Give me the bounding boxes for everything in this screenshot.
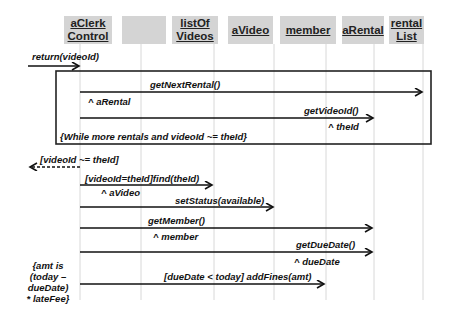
participant-arental: aRental	[342, 16, 384, 44]
label-set-status: setStatus(available)	[175, 195, 264, 206]
label-get-due-date: getDueDate()	[296, 239, 355, 250]
label-arental-return: ^ aRental	[88, 96, 131, 107]
label-avideo-return: ^ aVideo	[101, 187, 140, 198]
participant-rental-list: rental List	[389, 16, 424, 44]
label-get-member: getMember()	[148, 215, 205, 226]
participant-label: rental List	[391, 17, 422, 43]
label-due-date-return: ^ dueDate	[294, 256, 340, 267]
participant-label: listOf Videos	[176, 17, 214, 43]
label-member-return: ^ member	[153, 231, 198, 242]
label-find: [videoId=theId]find(theId)	[85, 173, 199, 184]
label-amt-note: {amt is (today – dueDate) * lateFee}	[18, 260, 78, 304]
participant-label: aVideo	[232, 24, 270, 37]
participant-blank	[122, 16, 166, 44]
participant-list-of-videos: listOf Videos	[172, 16, 218, 44]
participant-member: member	[280, 16, 336, 44]
label-videoid-neq: [videoId ~= theId]	[40, 154, 119, 165]
participant-label: aClerk Control	[68, 17, 109, 43]
label-loop-guard: {While more rentals and videoId ~= theId…	[60, 131, 247, 142]
participant-label: aRental	[342, 24, 384, 37]
label-return-videoid: return(videoId)	[32, 51, 99, 62]
participant-aclerk-control: aClerk Control	[64, 16, 112, 44]
participant-avideo: aVideo	[228, 16, 273, 44]
lifelines	[80, 44, 423, 300]
label-add-fines: [dueDate < today] addFines(amt)	[164, 271, 312, 282]
label-get-next-rental: getNextRental()	[150, 79, 220, 90]
label-theid-return: ^ theId	[328, 121, 359, 132]
label-get-video-id: getVideoId()	[304, 105, 359, 116]
participant-label: member	[286, 24, 331, 37]
